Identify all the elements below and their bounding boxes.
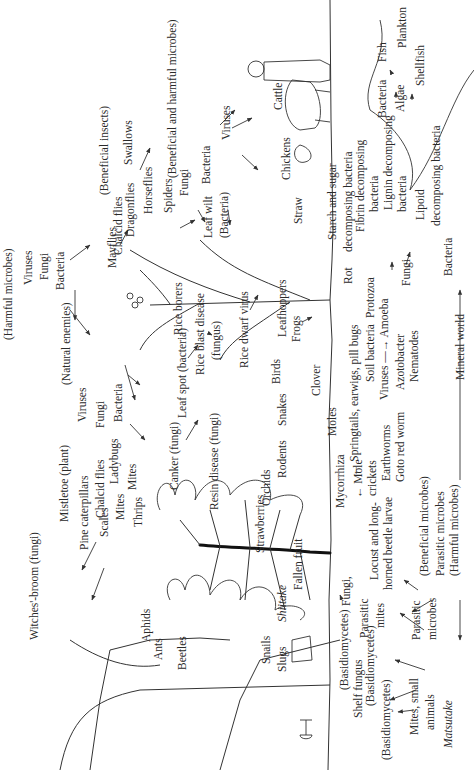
label-rice-blast-2: (fungus) (210, 321, 223, 360)
label-leafhoppers: Leafhoppers (276, 279, 289, 337)
label-moles: Moles (326, 407, 338, 436)
label-mites-small-2: animals (424, 694, 436, 730)
label-frogs: Frogs (290, 315, 303, 342)
label-harmful-microbes-soil: (Harmful microbes) (448, 484, 461, 576)
label-beetles: Beetles (176, 636, 188, 670)
label-azotobacter: Azotobacter (394, 334, 406, 390)
label-bhm-fungi: Fungi (178, 169, 191, 196)
label-thrips: Thrips (132, 496, 145, 527)
label-straw: Straw (292, 196, 304, 224)
label-matsutake: Matsutake (442, 700, 454, 749)
label-snails: Snails (260, 635, 272, 664)
label-rot: Rot (342, 267, 354, 284)
label-mistletoe: Mistletoe (plant) (58, 445, 71, 522)
label-mole-crickets: ← Mole (352, 459, 364, 498)
label-strawberries: Strawberries (254, 494, 266, 553)
label-mites-2: Mites (126, 463, 138, 490)
label-rodents: Rodents (276, 440, 288, 478)
label-fibrin: Fibrin decomposing (354, 139, 367, 232)
label-chickens: Chickens (280, 137, 292, 180)
label-rice-borers: Rice borers (172, 282, 184, 335)
label-cattle: Cattle (272, 83, 284, 110)
label-starch-sugar: Starch and sugar (326, 163, 339, 240)
label-leaf-wilt-bacteria: (Bacteria) (218, 192, 231, 238)
label-viruses-livestock: Viruses (220, 105, 232, 140)
label-hm-bacteria: Bacteria (54, 252, 66, 290)
label-spiders: Spiders (162, 178, 175, 213)
label-ben-harm-microbes: (Beneficial and harmful microbes) (166, 19, 179, 178)
label-hm-fungi: Fungi (38, 253, 51, 280)
label-fish: Fish (376, 42, 388, 62)
label-soil-bacteria: Soil bacteria (364, 324, 376, 382)
label-natural-enemies: (Natural enemies) (60, 302, 73, 385)
label-fibrin-2: bacteria (368, 176, 380, 212)
label-springtails: ← Springtails, earwigs, pill bugs (348, 324, 361, 476)
label-locust: Locust and long- (368, 502, 381, 580)
label-plankton: Plankton (396, 7, 408, 48)
label-parasitic-microbes-2: Parasitic (410, 600, 422, 640)
label-lipoid: Lipoid (414, 189, 427, 220)
label-snakes: Snakes (276, 393, 288, 426)
label-bacteria-soil: Bacteria (442, 238, 454, 276)
label-mole-crickets-2: crickets (366, 460, 378, 496)
diagram-labels: Witches'-broom (fungi)(Harmful microbes)… (0, 0, 474, 770)
label-ne-viruses: Viruses (76, 387, 88, 422)
label-earthworms: Earthworms (380, 424, 392, 481)
label-parasitic-mites-2: mites (374, 603, 386, 628)
label-mites-1: Mites (114, 493, 126, 520)
label-ants: Ants (152, 638, 164, 660)
label-fungi-fruit: Fungi, (340, 576, 353, 606)
label-viruses-soil: Viruses —→ Amoeba (378, 298, 390, 400)
label-basidio-2: (Basidiomycetes) (364, 625, 377, 706)
label-leaf-spot: Leaf spot (bacteria) (176, 328, 189, 418)
label-mycorrhiza: Mycorrhiza (334, 454, 347, 508)
label-parasitic-microbes-soil: Parasitic microbes (434, 491, 446, 576)
label-horseflies: Horseflies (142, 166, 154, 214)
label-dragonflies: Dragonflies (124, 182, 137, 237)
label-chalcid-flies-1: Chalcid flies (112, 196, 124, 255)
label-beneficial-insects: (Beneficial insects) (98, 106, 111, 195)
label-pine-caterpillars: Pine caterpillars (78, 475, 91, 550)
label-slugs: Slugs (276, 646, 289, 672)
label-ne-fungi: Fungi (94, 401, 107, 428)
label-ne-bacteria: Bacteria (112, 384, 124, 422)
label-resin-disease: Resin disease (fungi) (208, 413, 221, 510)
label-swallows: Swallows (122, 120, 134, 165)
label-mineral-world: Mineral world (454, 314, 466, 380)
label-protozoa: Protozoa (364, 277, 376, 318)
label-locust-2: horned beetle larvae (382, 497, 394, 590)
label-harmful-microbes: (Harmful microbes) (2, 248, 15, 340)
label-lignin: Lignin decomposing (382, 115, 395, 210)
label-lipoid-2: decomposing bacteria (430, 125, 443, 226)
label-fallen-fruit: Fallen fruit (292, 538, 304, 590)
label-birds: Birds (270, 359, 282, 384)
label-ladybugs: Ladybugs (108, 438, 121, 484)
label-fungi-soil: Fungi (400, 259, 413, 286)
label-canker: Canker (fungi) (168, 422, 181, 490)
label-scales: Scales (98, 507, 110, 537)
label-shellfish: Shellfish (414, 45, 426, 86)
label-aq-bacteria: Bacteria (376, 80, 388, 118)
label-parasitic-microbes-2b: microbes (426, 597, 438, 640)
label-leaf-wilt: Leaf wilt (202, 195, 214, 238)
label-hm-viruses: Viruses (22, 250, 34, 285)
label-basidio-3: (Basidiomycetes) (380, 679, 393, 760)
label-rice-blast: Rice blast disease (194, 293, 206, 375)
label-mites-small: Mites, small (408, 678, 421, 735)
label-goto-red-worm: Goto red worm (394, 412, 406, 482)
label-beneficial-microbes-soil: (Beneficial microbes) (418, 476, 431, 576)
label-basidio-1: (Basidiomycetes) (338, 609, 351, 690)
label-aphids: Aphids (140, 608, 153, 642)
label-lignin-2: bacteria (396, 176, 408, 212)
label-witches-broom: Witches'-broom (fungi) (28, 532, 41, 640)
label-rice-dwarf: Rice dwarf virus (238, 291, 250, 368)
label-shiitake: Shiitake (276, 585, 288, 622)
label-nematodes: Nematodes (408, 330, 420, 382)
label-algae: Algae (394, 85, 407, 112)
label-bhm-bacteria: Bacteria (200, 146, 212, 184)
label-clover: Clover (310, 365, 322, 396)
